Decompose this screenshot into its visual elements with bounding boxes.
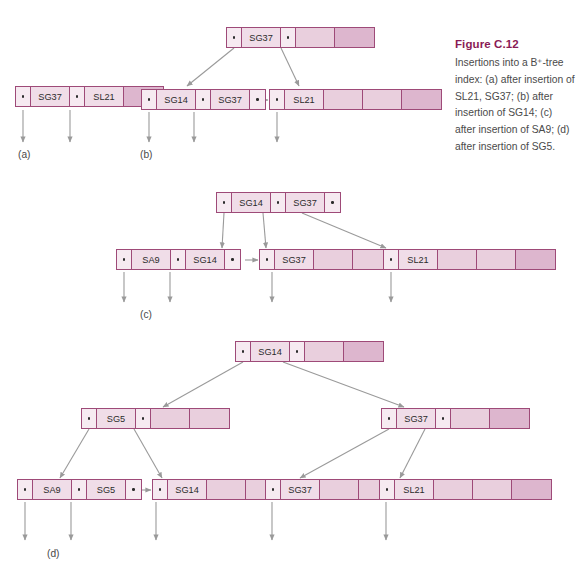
node-empty-cell-dark	[490, 409, 529, 428]
btree-node-b-leaf2: SL21	[269, 89, 442, 110]
pointer-dot-icon	[76, 95, 79, 98]
pointer-dot-icon	[287, 36, 290, 39]
node-pointer-cell	[236, 342, 251, 361]
node-key-cell: SG37	[286, 193, 325, 212]
node-key-cell: SG37	[281, 480, 320, 499]
node-pointer-cell	[270, 90, 285, 109]
panel-label-b: (b)	[140, 149, 152, 160]
pointer-dot-icon	[202, 98, 205, 101]
pointer-dot-icon	[132, 488, 135, 491]
node-pointer-cell	[136, 409, 151, 428]
pointer-dot-icon	[88, 417, 91, 420]
node-key-cell: SG14	[251, 342, 290, 361]
btree-node-c-leaf1: SA9SG14	[116, 249, 241, 270]
figure-caption-title: Figure C.12	[455, 38, 575, 50]
figure-caption-text: Insertions into a B⁺-tree index: (a) aft…	[455, 55, 575, 156]
node-empty-cell-dark	[516, 250, 555, 269]
node-pointer-cell	[72, 480, 87, 499]
btree-node-b-leaf1: SG14SG37	[141, 89, 266, 110]
node-pointer-cell	[225, 250, 240, 269]
node-empty-cell	[296, 28, 335, 47]
node-key-cell: SG37	[397, 409, 436, 428]
node-key-cell: SG37	[242, 28, 281, 47]
node-pointer-cell	[271, 193, 286, 212]
btree-node-b-root: SG37	[226, 27, 375, 48]
node-key-cell: SG14	[168, 480, 207, 499]
pointer-dot-icon	[277, 201, 280, 204]
btree-node-d-leaf4: SL21	[379, 479, 552, 500]
node-pointer-cell	[281, 28, 296, 47]
node-key-cell: SG14	[157, 90, 196, 109]
pointer-dot-icon	[296, 350, 299, 353]
pointer-dot-icon	[159, 488, 162, 491]
node-pointer-cell	[142, 90, 157, 109]
pointer-dot-icon	[24, 488, 27, 491]
node-key-cell: SG14	[186, 250, 225, 269]
pointer-dot-icon	[266, 258, 269, 261]
node-key-cell: SA9	[132, 250, 171, 269]
pointer-dot-icon	[331, 201, 334, 204]
figure-root: Figure C.12 Insertions into a B⁺-tree in…	[0, 0, 582, 578]
node-empty-cell-dark	[512, 480, 551, 499]
pointer-dot-icon	[123, 258, 126, 261]
node-pointer-cell	[250, 90, 265, 109]
node-empty-cell	[190, 409, 229, 428]
node-pointer-cell	[436, 409, 451, 428]
node-key-cell: SG37	[211, 90, 250, 109]
node-empty-cell	[314, 250, 353, 269]
node-pointer-cell	[260, 250, 275, 269]
figure-caption-block: Figure C.12 Insertions into a B⁺-tree in…	[455, 38, 575, 156]
node-key-cell: SG5	[87, 480, 126, 499]
btree-node-d-root: SG14	[235, 341, 384, 362]
node-empty-cell	[451, 409, 490, 428]
node-empty-cell	[324, 90, 363, 109]
btree-node-d-internal-left: SG5	[81, 408, 230, 429]
node-empty-cell	[320, 480, 359, 499]
node-pointer-cell	[290, 342, 305, 361]
btree-node-d-internal-right: SG37	[381, 408, 530, 429]
node-key-cell: SG37	[275, 250, 314, 269]
node-pointer-cell	[384, 250, 399, 269]
btree-node-d-leaf1: SA9SG5	[17, 479, 142, 500]
node-key-cell: SG5	[97, 409, 136, 428]
node-pointer-cell	[70, 87, 85, 106]
node-key-cell: SL21	[399, 250, 438, 269]
panel-label-c: (c)	[140, 309, 152, 320]
node-empty-cell	[305, 342, 344, 361]
node-key-cell: SL21	[395, 480, 434, 499]
node-empty-cell	[151, 409, 190, 428]
btree-node-c-leaf3: SL21	[383, 249, 556, 270]
node-pointer-cell	[196, 90, 211, 109]
node-pointer-cell	[16, 87, 31, 106]
pointer-dot-icon	[256, 98, 259, 101]
node-key-cell: SL21	[285, 90, 324, 109]
node-pointer-cell	[126, 480, 141, 499]
node-empty-cell	[473, 480, 512, 499]
node-empty-cell	[438, 250, 477, 269]
pointer-dot-icon	[388, 417, 391, 420]
node-key-cell: SG14	[232, 193, 271, 212]
node-pointer-cell	[217, 193, 232, 212]
pointer-dot-icon	[223, 201, 226, 204]
node-pointer-cell	[266, 480, 281, 499]
node-pointer-cell	[227, 28, 242, 47]
pointer-dot-icon	[177, 258, 180, 261]
pointer-dot-icon	[233, 36, 236, 39]
node-pointer-cell	[325, 193, 340, 212]
node-empty-cell-dark	[402, 90, 441, 109]
pointer-dot-icon	[272, 488, 275, 491]
node-empty-cell-dark	[335, 28, 374, 47]
node-pointer-cell	[382, 409, 397, 428]
panel-label-a: (a)	[18, 149, 30, 160]
pointer-dot-icon	[22, 95, 25, 98]
pointer-dot-icon	[148, 98, 151, 101]
btree-node-c-root: SG14SG37	[216, 192, 341, 213]
pointer-dot-icon	[386, 488, 389, 491]
node-pointer-cell	[153, 480, 168, 499]
node-pointer-cell	[82, 409, 97, 428]
node-pointer-cell	[380, 480, 395, 499]
node-empty-cell	[477, 250, 516, 269]
node-key-cell: SA9	[33, 480, 72, 499]
node-empty-cell	[363, 90, 402, 109]
node-empty-cell	[434, 480, 473, 499]
